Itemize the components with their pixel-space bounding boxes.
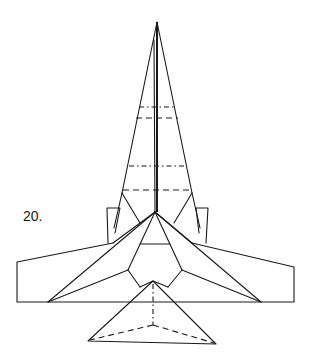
wings (17, 212, 294, 302)
fold-diagram: 20. (0, 0, 312, 363)
fuselage (114, 22, 200, 228)
tail-triangle (88, 281, 216, 344)
airplane-drawing (0, 0, 312, 363)
tail-fins (107, 208, 208, 243)
